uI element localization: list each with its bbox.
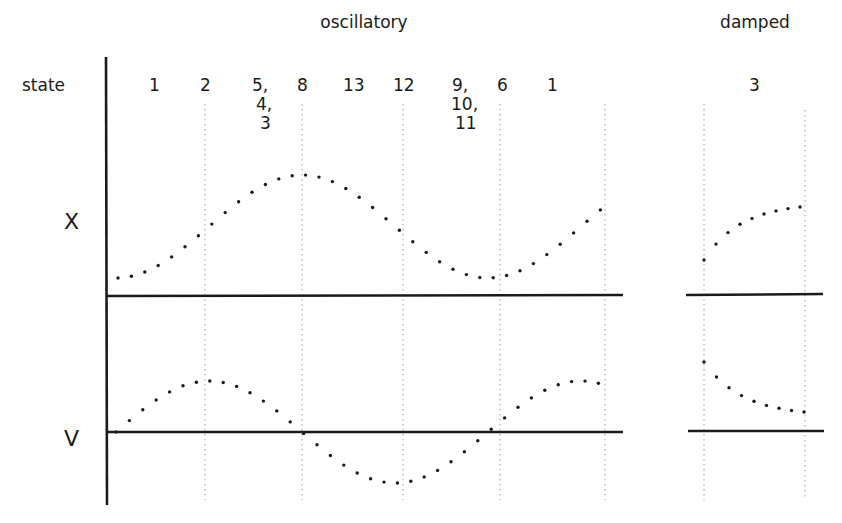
v-damped-dot xyxy=(790,409,793,412)
v-curve-dot xyxy=(409,480,412,483)
x-curve-dot xyxy=(518,269,521,272)
x-curve-dot xyxy=(505,274,508,277)
v-curve-dot xyxy=(356,471,359,474)
x-baseline-oscillatory xyxy=(106,295,623,296)
x-curve-dot xyxy=(572,231,575,234)
v-curve-dot xyxy=(516,406,519,409)
v-curve-dot xyxy=(597,382,600,385)
x-curve-dot xyxy=(411,240,414,243)
x-curve-dot xyxy=(344,187,347,190)
v-curve-dot xyxy=(423,475,426,478)
v-curve-dot xyxy=(557,383,560,386)
x-curve-dot xyxy=(371,206,374,209)
v-damped-dot xyxy=(777,407,780,410)
v-curve-dot xyxy=(222,381,225,384)
v-damped-dot xyxy=(715,375,718,378)
x-curve-dot xyxy=(425,251,428,254)
v-curve-dot xyxy=(436,469,439,472)
x-curve-dot xyxy=(384,217,387,220)
v-damped-dot xyxy=(702,360,705,363)
x-damped-dot xyxy=(726,231,729,234)
v-curve-dot xyxy=(490,428,493,431)
x-baseline-damped xyxy=(686,294,823,295)
v-curve-dot xyxy=(181,384,184,387)
v-curve-dot xyxy=(289,420,292,423)
x-curve-dot xyxy=(291,174,294,177)
v-curve-dot xyxy=(382,480,385,483)
v-curve-dot xyxy=(449,460,452,463)
v-damped-dot xyxy=(802,410,805,413)
x-curve-dot xyxy=(197,234,200,237)
v-curve-dot xyxy=(369,477,372,480)
x-curve-dot xyxy=(585,220,588,223)
x-curve-dot xyxy=(317,175,320,178)
diagram-canvas xyxy=(0,0,842,523)
v-curve-dot xyxy=(302,432,305,435)
x-damped-dot xyxy=(798,205,801,208)
x-curve-dot xyxy=(116,276,119,279)
x-curve-dot xyxy=(559,243,562,246)
x-damped-dot xyxy=(762,212,765,215)
v-curve-dot xyxy=(543,389,546,392)
x-damped-dot xyxy=(786,207,789,210)
v-curve-dot xyxy=(396,481,399,484)
x-curve-dot xyxy=(451,268,454,271)
v-curve-dot xyxy=(342,463,345,466)
x-curve-dot xyxy=(331,180,334,183)
state-gridlines xyxy=(205,104,805,500)
x-curve-dot xyxy=(250,191,253,194)
x-curve-dot xyxy=(398,229,401,232)
x-curve-dot xyxy=(358,196,361,199)
x-damped-dot xyxy=(702,258,705,261)
x-curve-dot xyxy=(304,173,307,176)
v-curve-dot xyxy=(530,396,533,399)
x-damped-dot xyxy=(738,223,741,226)
v-curve-dot xyxy=(208,379,211,382)
x-curve-dot xyxy=(143,270,146,273)
x-curve-dot xyxy=(465,273,468,276)
x-damped-dot xyxy=(714,242,717,245)
v-curve-dot xyxy=(275,409,278,412)
curves xyxy=(114,173,805,484)
v-curve-dot xyxy=(195,381,198,384)
x-curve-dot xyxy=(130,275,133,278)
v-curve-dot xyxy=(155,398,158,401)
v-curve-dot xyxy=(262,399,265,402)
x-curve-dot xyxy=(264,183,267,186)
v-curve-dot xyxy=(503,416,506,419)
v-damped-dot xyxy=(765,404,768,407)
v-curve-dot xyxy=(329,454,332,457)
x-curve-dot xyxy=(210,222,213,225)
v-curve-dot xyxy=(114,430,117,433)
x-curve-dot xyxy=(183,245,186,248)
v-curve-dot xyxy=(315,443,318,446)
v-curve-dot xyxy=(476,439,479,442)
v-curve-dot xyxy=(168,390,171,393)
x-curve-dot xyxy=(478,276,481,279)
v-curve-dot xyxy=(128,419,131,422)
x-curve-dot xyxy=(545,253,548,256)
x-curve-dot xyxy=(224,211,227,214)
v-curve-dot xyxy=(570,380,573,383)
v-damped-dot xyxy=(740,394,743,397)
v-curve-dot xyxy=(463,450,466,453)
v-damped-dot xyxy=(727,386,730,389)
x-curve-dot xyxy=(492,276,495,279)
v-curve-dot xyxy=(583,379,586,382)
v-damped-dot xyxy=(752,400,755,403)
v-curve-dot xyxy=(248,391,251,394)
x-curve-dot xyxy=(532,262,535,265)
x-damped-dot xyxy=(750,217,753,220)
x-curve-dot xyxy=(237,200,240,203)
x-curve-dot xyxy=(599,208,602,211)
x-curve-dot xyxy=(157,264,160,267)
v-curve-dot xyxy=(235,385,238,388)
x-curve-dot xyxy=(170,255,173,258)
x-damped-dot xyxy=(774,209,777,212)
x-curve-dot xyxy=(438,260,441,263)
vertical-axis xyxy=(106,57,107,505)
x-curve-dot xyxy=(277,177,280,180)
v-curve-dot xyxy=(141,408,144,411)
